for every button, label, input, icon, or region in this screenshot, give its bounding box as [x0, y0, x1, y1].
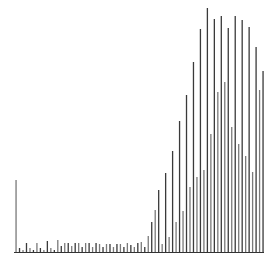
histogram-bar: [262, 71, 263, 252]
histogram-bar: [75, 243, 76, 252]
histogram-bar: [123, 247, 124, 252]
histogram-bar: [47, 241, 48, 252]
histogram-bar: [228, 28, 229, 252]
histogram-bar: [242, 20, 243, 252]
histogram-bar: [116, 244, 117, 252]
histogram-bar: [43, 250, 44, 252]
histogram-bar: [78, 243, 79, 252]
histogram-bar: [238, 144, 239, 252]
histogram-bar: [207, 8, 208, 252]
histogram-bar: [26, 243, 27, 252]
histogram-bar: [50, 248, 51, 252]
histogram-bar: [148, 236, 149, 252]
histogram-bar: [221, 16, 222, 252]
histogram-bar: [189, 187, 190, 252]
histogram-bar: [68, 243, 69, 252]
histogram-bar: [252, 172, 253, 252]
histogram-bar: [127, 243, 128, 252]
histogram-bar: [175, 222, 176, 252]
histogram-bar: [120, 244, 121, 252]
histogram-bar: [162, 244, 163, 252]
histogram-bar: [144, 247, 145, 252]
histogram-bar: [54, 250, 55, 252]
histogram-bar: [182, 211, 183, 252]
histogram-chart: [0, 0, 275, 267]
histogram-bar: [214, 19, 215, 252]
histogram-bar: [245, 156, 246, 252]
histogram-bar: [40, 248, 41, 252]
histogram-bar: [168, 237, 169, 252]
histogram-bar: [15, 180, 16, 252]
histogram-bar: [88, 243, 89, 252]
histogram-bar: [141, 242, 142, 252]
histogram-bar: [113, 247, 114, 252]
histogram-bar: [22, 250, 23, 252]
histogram-bar: [109, 244, 110, 252]
histogram-bar: [165, 173, 166, 252]
histogram-bar: [186, 95, 187, 252]
histogram-bar: [61, 246, 62, 252]
histogram-bar: [71, 246, 72, 252]
histogram-bar: [99, 244, 100, 252]
histogram-bar: [255, 47, 256, 252]
histogram-bar: [85, 243, 86, 252]
histogram-bar: [151, 222, 152, 252]
histogram-bar: [106, 244, 107, 252]
histogram-bar: [248, 27, 249, 252]
histogram-bar: [200, 29, 201, 252]
histogram-bar: [235, 16, 236, 252]
histogram-bars: [15, 8, 263, 252]
histogram-bar: [259, 90, 260, 252]
histogram-bar: [231, 127, 232, 252]
histogram-bar: [203, 170, 204, 252]
histogram-bar: [36, 243, 37, 252]
histogram-bar: [102, 247, 103, 252]
histogram-bar: [95, 243, 96, 252]
histogram-bar: [155, 210, 156, 252]
histogram-bar: [210, 134, 211, 252]
histogram-bar: [57, 240, 58, 252]
histogram-bar: [134, 247, 135, 252]
histogram-bar: [130, 245, 131, 252]
histogram-bar: [33, 250, 34, 252]
histogram-bar: [172, 151, 173, 252]
histogram-bar: [137, 243, 138, 252]
histogram-bar: [29, 248, 30, 252]
histogram-bar: [217, 92, 218, 252]
histogram-bar: [158, 190, 159, 252]
histogram-bar: [179, 121, 180, 252]
histogram-bar: [82, 247, 83, 252]
histogram-bar: [19, 248, 20, 252]
histogram-bar: [224, 82, 225, 252]
histogram-bar: [196, 177, 197, 252]
histogram-bar: [64, 243, 65, 252]
histogram-bar: [92, 247, 93, 252]
histogram-bar: [193, 62, 194, 252]
